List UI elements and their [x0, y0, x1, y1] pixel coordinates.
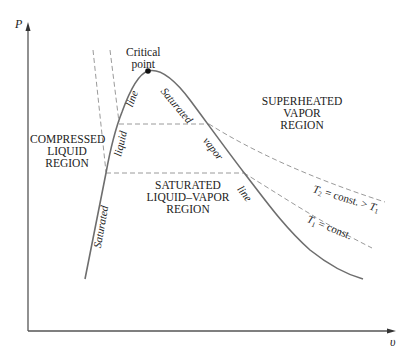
compressed-liquid-line2: LIQUID	[30, 145, 104, 157]
x-axis-label: υ	[390, 336, 396, 349]
critical-point-label-line1: Critical	[126, 46, 161, 58]
saturated-mixture-line2: LIQUID–VAPOR	[138, 191, 238, 203]
axes	[26, 22, 397, 334]
x-axis-arrow-icon	[387, 329, 396, 334]
isotherm-t1-superheated	[244, 173, 372, 248]
compressed-liquid-line3: REGION	[30, 157, 104, 169]
superheated-vapor-line2: VAPOR	[258, 107, 346, 119]
superheated-vapor-region-label: SUPERHEATED VAPOR REGION	[258, 95, 346, 131]
critical-point-label-line2: point	[126, 58, 161, 70]
saturated-mixture-line1: SATURATED	[138, 179, 238, 191]
compressed-liquid-line1: COMPRESSED	[30, 133, 104, 145]
critical-point-label: Critical point	[126, 46, 161, 70]
compressed-isotherm-t2	[110, 50, 119, 122]
y-axis-label: P	[15, 18, 22, 31]
superheated-vapor-line3: REGION	[258, 119, 346, 131]
y-axis-arrow-icon	[26, 22, 31, 31]
pv-diagram-canvas	[0, 0, 411, 352]
superheated-vapor-line1: SUPERHEATED	[258, 95, 346, 107]
saturated-mixture-line3: REGION	[138, 203, 238, 215]
compressed-liquid-region-label: COMPRESSED LIQUID REGION	[30, 133, 104, 169]
saturated-mixture-region-label: SATURATED LIQUID–VAPOR REGION	[138, 179, 238, 215]
